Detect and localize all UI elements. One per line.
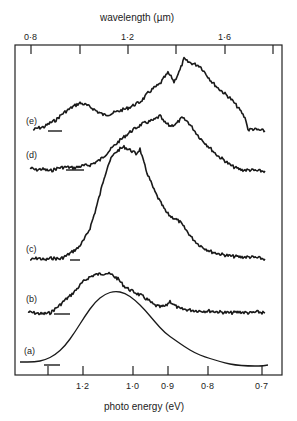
curve-a	[20, 292, 268, 366]
curve-b	[28, 273, 265, 315]
plot-area	[0, 0, 297, 421]
curve-d	[30, 115, 265, 172]
plot-frame	[15, 45, 282, 375]
